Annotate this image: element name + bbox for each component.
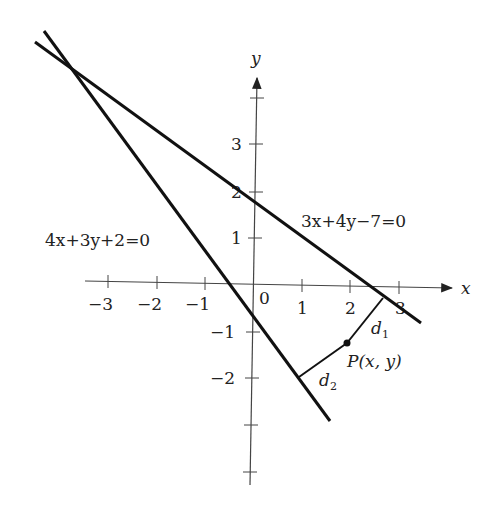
x-tick-label: −3	[88, 294, 113, 314]
equation-line-1: 4x+3y+2=0	[45, 230, 150, 250]
x-tick-label: −2	[137, 294, 162, 314]
y-tick-label: −1	[210, 322, 235, 342]
point-p-label: P(x, y)	[346, 351, 402, 371]
point-p	[344, 340, 351, 347]
d2-label: d2	[319, 370, 337, 393]
x-tick-label: 2	[345, 298, 356, 318]
coordinate-diagram: x y −3 −2 −1 0 1 2 3 3 2 1 −1 −2 4x+3y+2…	[0, 0, 494, 511]
equation-line-2: 3x+4y−7=0	[301, 211, 406, 231]
y-tick-label: 3	[231, 134, 242, 154]
origin-label: 0	[259, 288, 270, 308]
y-axis-label: y	[250, 48, 261, 68]
x-tick-label: −1	[185, 294, 210, 314]
y-tick-label: 1	[231, 228, 242, 248]
x-axis-label: x	[461, 278, 471, 298]
d1-label: d1	[371, 318, 389, 341]
y-tick-label: −2	[210, 368, 235, 388]
y-axis	[243, 78, 264, 485]
x-tick-label: 1	[297, 298, 308, 318]
